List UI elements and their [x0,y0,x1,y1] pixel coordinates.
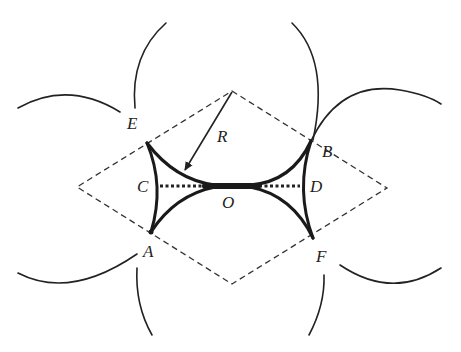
lower-right-circle-arc [340,265,441,283]
label-e: E [127,115,137,132]
top-circle-right-arc [292,23,318,140]
label-d: D [310,178,322,195]
lower-left-circle-arc [18,254,137,283]
neck-boundary [147,141,313,238]
upper-boundary-curve [147,141,311,185]
left-boundary-curve [147,143,157,232]
label-a: A [143,243,153,260]
point-a-dot [149,230,154,235]
outer-circles [18,23,441,335]
diagram-canvas [0,0,461,352]
bottom-circle-right-arc [309,275,324,335]
upper-right-circle-arc [311,89,441,141]
geometry-diagram: E B C D O A F R [0,0,461,352]
label-c: C [137,178,148,195]
label-o: O [222,194,234,211]
bottom-circle-left-arc [137,268,152,335]
label-b: B [322,143,332,160]
upper-left-circle-arc [18,95,120,112]
label-f: F [316,248,326,265]
top-circle-left-arc [134,23,166,108]
label-r: R [217,128,227,145]
